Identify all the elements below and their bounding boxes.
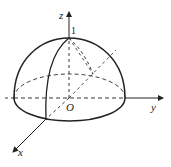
base-ellipse-back <box>14 74 125 98</box>
dome-outline <box>14 38 125 98</box>
origin-label: O <box>66 101 74 113</box>
hemisphere-diagram: z 1 O y x <box>0 0 171 167</box>
radius-line <box>69 38 93 74</box>
x-axis-label: x <box>17 146 23 158</box>
y-axis-label: y <box>150 101 156 113</box>
z-axis-label: z <box>58 9 64 21</box>
top-value-label: 1 <box>71 25 76 36</box>
